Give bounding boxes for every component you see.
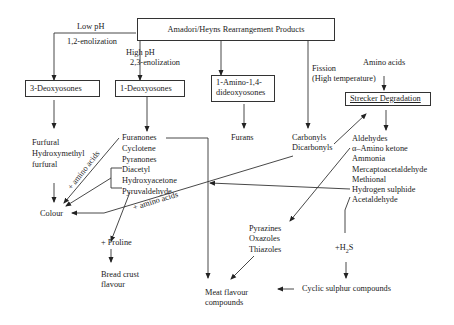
1-deoxyosones-box: 1-Deoxyosones — [115, 80, 185, 97]
strecker-degradation-box: Strecker Degradation — [345, 92, 431, 106]
1-amino-dideoxyosones-box: 1-Amino-1,4- dideoxyosones — [211, 75, 275, 102]
cyclic-sulphur-compounds-label: Cyclic sulphur compounds — [302, 284, 391, 294]
strecker-products: Aldehydes α–Amino ketone Ammonia Mercapt… — [352, 134, 427, 205]
bread-crust-flavour-label: Bread crust flavour — [101, 270, 139, 291]
meat-flavour-compounds-label: Meat flavour compounds — [205, 288, 248, 309]
amino-acids-input-label: Amino acids — [363, 58, 405, 68]
enolization-12-label: 1,2-enolization — [67, 37, 117, 47]
h2s-label: +H2S — [335, 243, 353, 256]
proline-label: + Proline — [101, 238, 132, 248]
3-deoxyosones-box: 3-Deoxyosones — [25, 80, 100, 97]
colour-label: Colour — [40, 209, 63, 219]
high-ph-label: High pH — [126, 48, 155, 58]
furfural-products: Furfural Hydroxymethyl furfural — [32, 137, 85, 170]
enolization-23-label: 2,3-enolization — [130, 58, 180, 68]
maillard-reaction-diagram: Amadori/Heyns Rearrangement Products Low… — [0, 0, 454, 325]
heterocycles-list: Pyrazines Oxazoles Thiazoles — [249, 224, 281, 255]
furans-label: Furans — [231, 133, 254, 143]
low-ph-label: Low pH — [77, 22, 104, 32]
1-deoxyosone-products: Furanones Cyclotene Pyranones Diacetyl H… — [122, 133, 177, 198]
amadori-heyns-box: Amadori/Heyns Rearrangement Products — [137, 18, 335, 41]
carbonyls-products: Carbonyls Dicarbonyls — [292, 133, 333, 154]
